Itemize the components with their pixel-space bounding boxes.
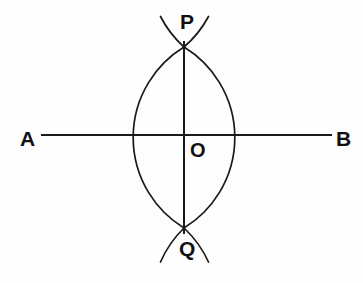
point-label-p: P: [180, 11, 194, 32]
point-label-b: B: [336, 128, 351, 149]
point-label-a: A: [20, 128, 35, 149]
point-label-o: O: [190, 140, 206, 160]
left-arc: [133, 47, 184, 228]
geometry-figure: A B P Q O: [0, 0, 363, 283]
right-arc: [184, 47, 235, 228]
point-label-q: Q: [179, 238, 195, 259]
